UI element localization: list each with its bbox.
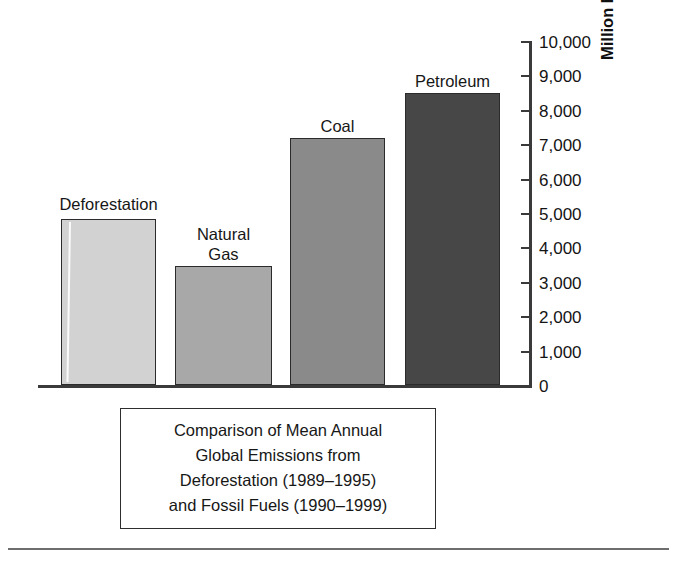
- caption-line-4: and Fossil Fuels (1990–1999): [127, 493, 429, 518]
- y-tick-label-7000: 7,000: [539, 137, 582, 154]
- y-tick-label-1000: 1,000: [539, 344, 582, 361]
- y-tick-label-5000: 5,000: [539, 206, 582, 223]
- scan-streak-artifact: [66, 222, 71, 382]
- caption-line-3: Deforestation (1989–1995): [127, 468, 429, 493]
- bar-label-coal: Coal: [290, 116, 385, 136]
- y-tick-9000: [521, 75, 530, 77]
- caption-line-2: Global Emissions from: [127, 443, 429, 468]
- y-tick-label-2000: 2,000: [539, 309, 582, 326]
- y-tick-4000: [521, 247, 530, 249]
- bar-deforestation: [61, 219, 156, 385]
- y-tick-3000: [521, 282, 530, 284]
- y-tick-label-9000: 9,000: [539, 68, 582, 85]
- y-tick-label-3000: 3,000: [539, 275, 582, 292]
- y-tick-10000: [521, 41, 530, 43]
- y-tick-8000: [521, 110, 530, 112]
- bar-label-petroleum: Petroleum: [390, 71, 515, 91]
- y-tick-1000: [521, 351, 530, 353]
- caption-line-1: Comparison of Mean Annual: [127, 418, 429, 443]
- bottom-divider-rule: [8, 548, 669, 550]
- x-axis-baseline: [38, 385, 530, 388]
- y-tick-7000: [521, 144, 530, 146]
- y-tick-5000: [521, 213, 530, 215]
- bar-natural-gas: [175, 266, 272, 385]
- y-tick-0: [521, 385, 530, 387]
- caption-box: Comparison of Mean Annual Global Emissio…: [120, 408, 436, 529]
- y-tick-label-8000: 8,000: [539, 103, 582, 120]
- plot-area: Deforestation Natural Gas Coal Petroleum: [38, 28, 530, 388]
- y-tick-label-0: 0: [539, 378, 548, 395]
- bar-label-natural-gas: Natural Gas: [175, 224, 272, 264]
- bar-petroleum: [405, 93, 500, 385]
- bar-coal: [290, 138, 385, 385]
- bar-label-deforestation: Deforestation: [31, 194, 186, 214]
- y-tick-label-6000: 6,000: [539, 172, 582, 189]
- y-tick-label-4000: 4,000: [539, 240, 582, 257]
- y-axis-title-main: Million Metric Tons of CO: [598, 0, 616, 60]
- y-tick-label-10000: 10,000: [539, 34, 591, 51]
- y-tick-2000: [521, 316, 530, 318]
- y-tick-6000: [521, 179, 530, 181]
- emissions-bar-chart-figure: Deforestation Natural Gas Coal Petroleum…: [0, 0, 677, 566]
- y-axis-title: Million Metric Tons of CO2: [598, 0, 620, 60]
